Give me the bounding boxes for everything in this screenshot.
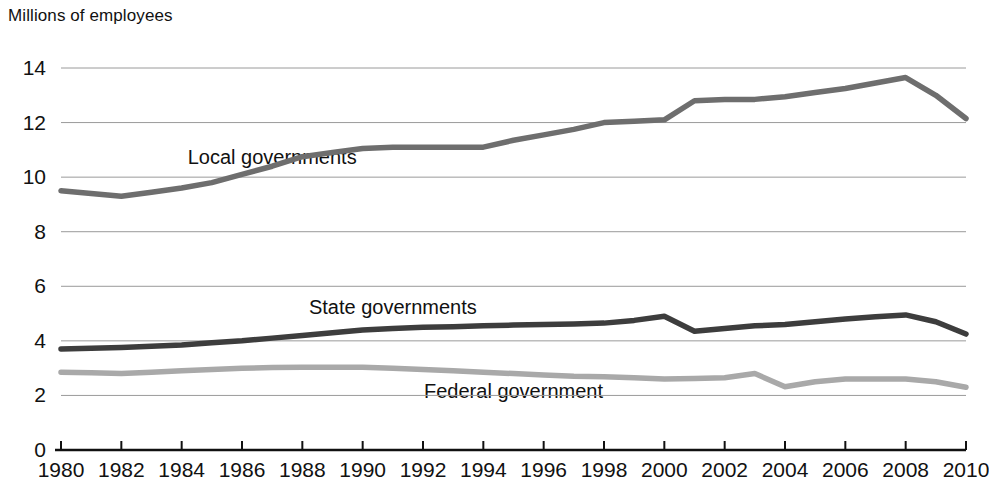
series-line-1 xyxy=(61,315,966,349)
series-line-0 xyxy=(61,78,966,197)
x-axis-ticks xyxy=(61,441,966,450)
series-line-2 xyxy=(61,367,966,387)
